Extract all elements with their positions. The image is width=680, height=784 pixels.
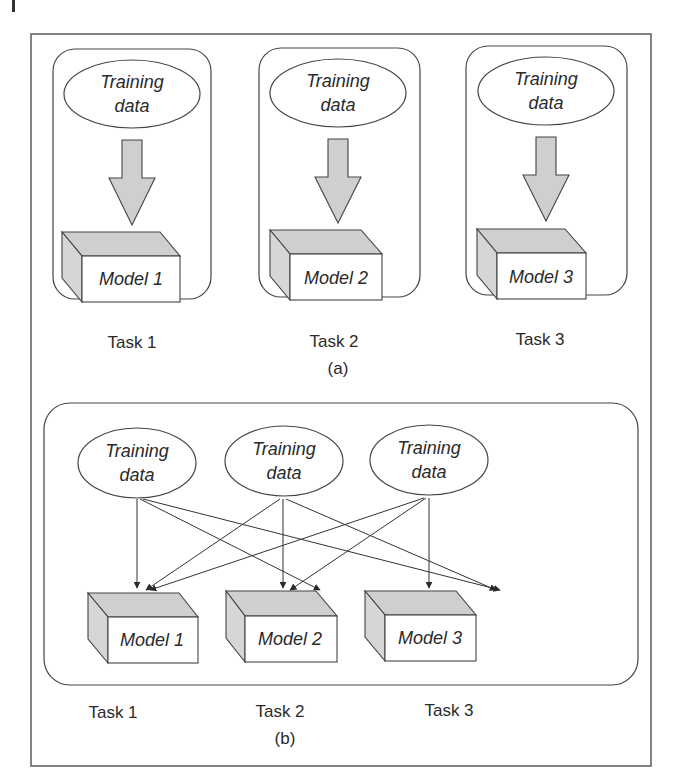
training-data-ellipse <box>478 57 614 125</box>
training-data-ellipse <box>225 426 343 496</box>
model-label: Model 1 <box>120 630 184 650</box>
model-box <box>270 230 382 300</box>
model-label: Model 2 <box>304 268 368 288</box>
model-box <box>62 232 180 302</box>
figure-canvas: Training data Model 1 Task 1 Training da… <box>0 0 680 784</box>
training-data-label: data <box>528 93 563 113</box>
connector-arrow <box>143 499 500 590</box>
task-label: Task 3 <box>424 701 473 720</box>
training-data-label: Training <box>514 69 578 89</box>
training-data-label: data <box>411 462 446 482</box>
page-edge-mark <box>12 0 15 12</box>
down-arrow-icon <box>109 140 155 225</box>
connector-arrow <box>150 498 424 590</box>
task-label: Task 2 <box>309 332 358 351</box>
data-source-2: Training data <box>225 426 343 496</box>
model-box <box>477 229 586 299</box>
connector-arrow <box>286 499 496 590</box>
training-data-label: data <box>119 465 154 485</box>
connector-arrow <box>290 498 426 590</box>
down-arrow-icon <box>523 137 569 221</box>
training-data-label: data <box>114 96 149 116</box>
model-label: Model 2 <box>258 629 322 649</box>
task-label: Task 2 <box>255 702 304 721</box>
task-label: Task 1 <box>88 703 137 722</box>
training-data-label: data <box>320 95 355 115</box>
model-label: Model 1 <box>99 269 163 289</box>
training-data-label: Training <box>252 439 316 459</box>
training-data-label: Training <box>306 71 370 91</box>
panel-a-task-3: Training data Model 3 Task 3 <box>466 46 627 349</box>
panel-a-caption: (a) <box>328 359 349 378</box>
panel-a-task-2: Training data Model 2 Task 2 <box>259 48 420 351</box>
data-source-3: Training data <box>370 425 488 495</box>
model-2: Model 2 <box>226 591 337 662</box>
connector-arrow <box>140 499 320 590</box>
training-data-ellipse <box>78 428 196 498</box>
panel-b: Training data Training data Training dat… <box>44 403 638 748</box>
training-data-label: Training <box>100 72 164 92</box>
task-label: Task 1 <box>107 333 156 352</box>
model-3: Model 3 <box>365 591 476 661</box>
task-label: Task 3 <box>515 330 564 349</box>
down-arrow-icon <box>315 139 361 223</box>
data-source-1: Training data <box>78 428 196 498</box>
panel-a-task-1: Training data Model 1 Task 1 <box>53 49 211 352</box>
training-data-ellipse <box>64 60 200 128</box>
training-data-ellipse <box>370 425 488 495</box>
model-label: Model 3 <box>509 267 573 287</box>
connections <box>137 498 500 590</box>
panel-a: Training data Model 1 Task 1 Training da… <box>53 46 627 378</box>
training-data-label: data <box>266 463 301 483</box>
panel-b-caption: (b) <box>275 729 296 748</box>
model-1: Model 1 <box>88 593 198 663</box>
training-data-ellipse <box>270 59 406 127</box>
training-data-label: Training <box>105 441 169 461</box>
training-data-label: Training <box>397 438 461 458</box>
model-label: Model 3 <box>398 628 462 648</box>
